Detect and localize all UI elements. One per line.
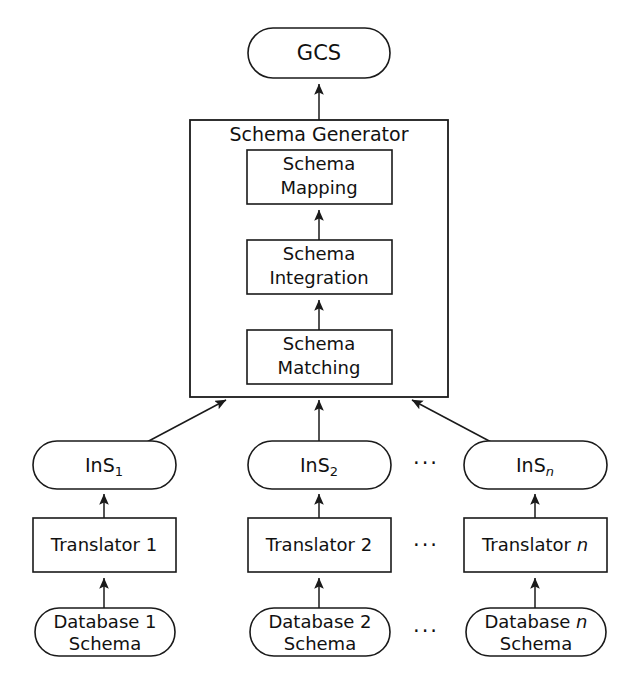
translator-n-label: Translator n: [481, 534, 588, 555]
node-database-1[interactable]: Database 1 Schema: [35, 608, 175, 656]
database-1-base: Database: [53, 611, 139, 632]
node-schema-integration[interactable]: Schema Integration: [247, 240, 392, 294]
node-database-n[interactable]: Database n Schema: [466, 608, 606, 656]
diagram-root: GCS Schema Generator Schema Mapping Sche…: [0, 0, 636, 684]
database-1-suffix: 1: [145, 611, 156, 632]
edge-insn-to-generator: [412, 400, 493, 443]
database-2-label-line2: Schema: [284, 633, 356, 654]
node-gcs[interactable]: GCS: [248, 28, 390, 78]
ellipsis-intermediate-row: ···: [413, 451, 439, 475]
translator-2-suffix: 2: [361, 534, 372, 555]
ins-n-subscript: n: [546, 464, 554, 479]
translator-2-label: Translator 2: [265, 534, 372, 555]
database-2-label-line1: Database 2: [268, 611, 371, 632]
ins-1-subscript: 1: [115, 464, 123, 479]
node-translator-1[interactable]: Translator 1: [33, 518, 176, 572]
node-translator-n[interactable]: Translator n: [464, 518, 607, 572]
schema-mapping-label-line2: Mapping: [280, 177, 357, 198]
database-n-label-line1: Database n: [484, 611, 587, 632]
ins-2-base: InS: [300, 454, 330, 476]
translator-n-base: Translator: [481, 534, 572, 555]
database-n-label-line2: Schema: [500, 633, 572, 654]
schema-matching-label-line1: Schema: [283, 333, 355, 354]
diagram-canvas: GCS Schema Generator Schema Mapping Sche…: [0, 0, 636, 684]
node-schema-matching[interactable]: Schema Matching: [247, 330, 392, 384]
node-translator-2[interactable]: Translator 2: [248, 518, 391, 572]
translator-1-suffix: 1: [146, 534, 157, 555]
node-ins-1[interactable]: InS1: [33, 441, 176, 489]
schema-generator-title: Schema Generator: [230, 123, 409, 145]
database-n-base: Database: [484, 611, 570, 632]
schema-integration-label-line2: Integration: [269, 267, 368, 288]
node-database-2[interactable]: Database 2 Schema: [250, 608, 390, 656]
schema-mapping-label-line1: Schema: [283, 153, 355, 174]
database-1-label-line1: Database 1: [53, 611, 156, 632]
translator-1-base: Translator: [50, 534, 141, 555]
node-schema-mapping[interactable]: Schema Mapping: [247, 150, 392, 204]
translator-n-suffix: n: [577, 534, 588, 555]
ellipsis-translator-row: ···: [413, 533, 439, 557]
ins-2-subscript: 2: [330, 464, 338, 479]
database-2-base: Database: [268, 611, 354, 632]
node-ins-2[interactable]: InS2: [248, 441, 391, 489]
database-2-suffix: 2: [360, 611, 371, 632]
node-ins-n[interactable]: InSn: [464, 441, 607, 489]
edge-ins1-to-generator: [145, 400, 226, 443]
ellipsis-source-row: ···: [413, 619, 439, 643]
database-1-label-line2: Schema: [69, 633, 141, 654]
ins-1-base: InS: [85, 454, 115, 476]
ins-n-base: InS: [516, 454, 546, 476]
translator-2-base: Translator: [265, 534, 356, 555]
gcs-label: GCS: [297, 41, 341, 65]
translator-1-label: Translator 1: [50, 534, 157, 555]
schema-integration-label-line1: Schema: [283, 243, 355, 264]
database-n-suffix: n: [576, 611, 587, 632]
schema-matching-label-line2: Matching: [278, 357, 361, 378]
